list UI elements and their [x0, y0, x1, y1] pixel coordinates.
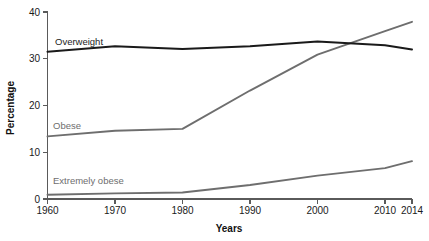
series-label-extremely-obese: Extremely obese [53, 175, 124, 186]
x-axis-title: Years [216, 223, 243, 234]
x-tick-label-1990: 1990 [239, 205, 262, 216]
series-label-obese: Obese [53, 120, 81, 131]
y-tick-label-30: 30 [29, 53, 41, 64]
y-tick-label-10: 10 [29, 147, 41, 158]
series-label-overweight: Overweight [55, 36, 103, 47]
y-axis-title: Percentage [5, 81, 16, 135]
y-tick-label-20: 20 [29, 100, 41, 111]
x-tick-label-1970: 1970 [104, 205, 127, 216]
line-chart: 40 30 20 10 0 Percentage 1960 1970 1980 … [0, 0, 429, 241]
x-tick-label-1980: 1980 [171, 205, 194, 216]
x-tick-label-1960: 1960 [36, 205, 59, 216]
chart-container: 40 30 20 10 0 Percentage 1960 1970 1980 … [0, 0, 429, 241]
x-tick-label-2014: 2014 [401, 205, 424, 216]
y-tick-label-0: 0 [34, 194, 40, 205]
y-tick-label-40: 40 [29, 7, 41, 18]
x-tick-label-2010: 2010 [374, 205, 397, 216]
x-tick-label-2000: 2000 [306, 205, 329, 216]
